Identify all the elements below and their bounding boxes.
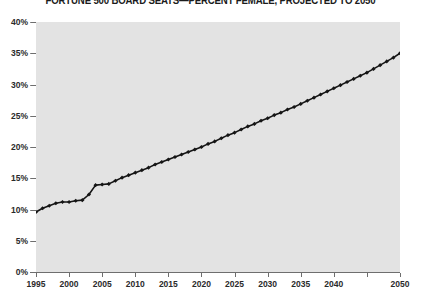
chart-title: FORTUNE 500 BOARD SEATS—PERCENT FEMALE, … [17, 0, 404, 6]
x-axis-tick [168, 273, 169, 277]
data-point-marker [47, 204, 51, 208]
data-point-marker [180, 152, 184, 156]
y-axis-label-30: 30% [0, 81, 28, 89]
x-axis-tick [69, 273, 70, 277]
data-point-marker [140, 168, 144, 172]
data-line [36, 53, 400, 212]
chart-container: FORTUNE 500 BOARD SEATS—PERCENT FEMALE, … [0, 0, 421, 306]
data-point-marker [100, 182, 104, 186]
x-axis-tick [102, 273, 103, 277]
x-axis-label-2050: 2050 [380, 280, 420, 289]
x-axis-label-2040: 2040 [314, 280, 354, 289]
y-axis-label-15: 15% [0, 174, 28, 182]
y-axis-label-40: 40% [0, 18, 28, 26]
y-axis-label-5: 5% [0, 237, 28, 245]
y-axis-label-10: 10% [0, 206, 28, 214]
data-point-marker [133, 171, 137, 175]
x-axis-tick [334, 273, 335, 277]
y-axis-label-20: 20% [0, 143, 28, 151]
x-axis-line [30, 272, 400, 273]
x-axis-tick [268, 273, 269, 277]
data-point-marker [193, 147, 197, 151]
x-axis-tick [301, 273, 302, 277]
x-axis-tick [400, 273, 401, 277]
y-axis-label-25: 25% [0, 112, 28, 120]
data-point-marker [166, 157, 170, 161]
x-axis-tick [201, 273, 202, 277]
data-point-marker [67, 200, 71, 204]
data-point-marker [74, 199, 78, 203]
data-point-marker [173, 155, 177, 159]
x-axis-tick [367, 273, 368, 277]
plot-area [36, 22, 400, 272]
y-axis-label-35: 35% [0, 49, 28, 57]
x-axis-tick [36, 273, 37, 277]
y-axis-label-0: 0% [0, 268, 28, 276]
data-point-marker [127, 173, 131, 177]
x-axis-tick [235, 273, 236, 277]
data-point-marker [60, 200, 64, 204]
data-point-marker [160, 160, 164, 164]
data-point-marker [54, 201, 58, 205]
data-point-marker [186, 150, 190, 154]
data-line-svg [36, 22, 400, 272]
x-axis-tick [135, 273, 136, 277]
